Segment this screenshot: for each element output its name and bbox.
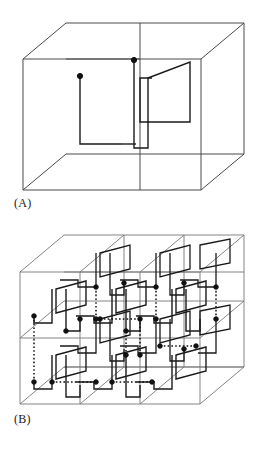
- box-edge-bottom-left-diagonal: [23, 154, 66, 190]
- panel-a-label: (A): [14, 196, 32, 211]
- dot-marker: [150, 380, 155, 385]
- box-edge-top-left: [23, 23, 66, 59]
- dot-marker-right: [131, 57, 136, 62]
- panel-b-cells-upper-front: [34, 281, 206, 331]
- dot-marker: [158, 344, 163, 349]
- dot-marker: [124, 353, 129, 358]
- grid-top-diag-1: [80, 235, 124, 272]
- cell-plane: [116, 347, 146, 379]
- grid-bottom-diag-2: [140, 367, 184, 404]
- grid-bottom-diag-1: [80, 367, 124, 404]
- dot-marker: [138, 317, 143, 322]
- dot-marker: [110, 380, 115, 385]
- cell-plane: [176, 281, 206, 313]
- box-back-face: [66, 23, 244, 154]
- dot-marker: [182, 347, 187, 352]
- polyline-left-u: [80, 76, 122, 144]
- dot-marker: [94, 285, 99, 290]
- dot-marker: [32, 314, 37, 319]
- dot-marker: [154, 285, 159, 290]
- dot-marker: [182, 281, 187, 286]
- dot-marker: [78, 317, 83, 322]
- grid-top-diag-2: [140, 235, 184, 272]
- inclined-plane: [148, 62, 190, 122]
- cell-plane: [116, 281, 146, 313]
- figure-container: (A) (B): [0, 0, 265, 451]
- dot-marker: [98, 317, 103, 322]
- grid-mid-left-diag: [20, 301, 64, 338]
- panel-a: [0, 0, 265, 225]
- cell-polyline: [60, 253, 96, 287]
- dot-marker: [122, 281, 127, 286]
- box-edge-top-left: [20, 235, 64, 272]
- panel-b-cells-lower-front: [34, 347, 206, 397]
- panel-b-canvas: [0, 225, 265, 451]
- box-edge-bottom-right: [200, 367, 244, 404]
- box-front-face: [23, 59, 201, 190]
- panel-a-canvas: [0, 0, 265, 225]
- cell-plane: [176, 347, 206, 379]
- panel-a-structures: [80, 60, 190, 148]
- dot-marker: [32, 380, 37, 385]
- dot-marker: [214, 285, 219, 290]
- cell-polyline: [34, 289, 52, 323]
- panel-a-markers: [77, 57, 136, 78]
- dot-marker: [154, 317, 159, 322]
- dot-marker: [64, 329, 69, 334]
- dot-marker: [50, 380, 55, 385]
- dot-marker: [214, 317, 219, 322]
- dot-marker: [138, 353, 143, 358]
- box-edge-bottom-left: [20, 367, 64, 404]
- cell-plane: [56, 281, 86, 313]
- cell-polyline: [34, 355, 52, 389]
- panel-b: [0, 225, 265, 451]
- box-edge-top-right: [201, 23, 244, 59]
- box-edge-bottom-right: [201, 154, 244, 190]
- polyline-right-u: [134, 60, 152, 148]
- dot-marker: [194, 344, 199, 349]
- dot-marker: [94, 380, 99, 385]
- dot-marker-left: [77, 73, 82, 78]
- cell-plane: [200, 239, 230, 269]
- cell-plane: [56, 347, 86, 379]
- dot-marker: [124, 329, 129, 334]
- panel-b-label: (B): [14, 412, 31, 427]
